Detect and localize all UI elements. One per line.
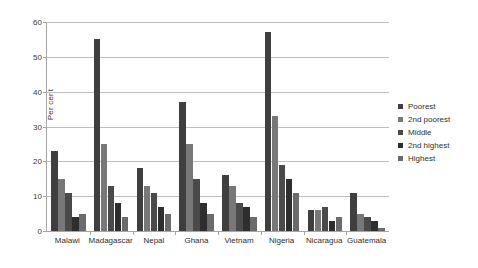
x-tick-mark xyxy=(218,231,219,235)
x-tick-mark xyxy=(346,231,347,235)
legend-swatch-icon xyxy=(398,104,403,109)
bar xyxy=(101,144,108,231)
y-tick-label: 40 xyxy=(33,87,42,96)
bar xyxy=(72,217,79,231)
x-axis-label-vietnam: Vietnam xyxy=(218,236,261,245)
bar xyxy=(272,116,279,231)
legend-swatch-icon xyxy=(398,130,403,135)
bar xyxy=(115,203,122,231)
bar xyxy=(286,179,293,231)
y-tick-label: 10 xyxy=(33,192,42,201)
bar-group xyxy=(218,22,261,231)
bar xyxy=(265,32,272,231)
bar xyxy=(51,151,58,231)
plot-area: 0102030405060 xyxy=(46,22,389,232)
bar xyxy=(58,179,65,231)
legend: Poorest2nd poorestMiddle2nd highestHighe… xyxy=(398,100,474,165)
x-axis-label-malawi: Malawi xyxy=(46,236,89,245)
bar xyxy=(236,203,243,231)
bar xyxy=(364,217,371,231)
legend-label: 2nd highest xyxy=(408,141,449,150)
x-axis-label-madagascar: Madagascar xyxy=(89,236,133,245)
bar xyxy=(137,168,144,231)
legend-item[interactable]: Poorest xyxy=(398,100,474,113)
legend-label: 2nd poorest xyxy=(408,115,450,124)
legend-swatch-icon xyxy=(398,143,403,148)
bar xyxy=(315,210,322,231)
bar xyxy=(158,207,165,231)
bar-group xyxy=(90,22,133,231)
x-tick-mark xyxy=(90,231,91,235)
bar xyxy=(144,186,151,231)
bar xyxy=(308,210,315,231)
bar xyxy=(122,217,129,231)
bar xyxy=(200,203,207,231)
bar xyxy=(378,228,385,231)
bar xyxy=(151,193,158,231)
bar xyxy=(207,214,214,231)
bar-group xyxy=(346,22,389,231)
bar xyxy=(229,186,236,231)
bar xyxy=(94,39,101,231)
legend-item[interactable]: 2nd poorest xyxy=(398,113,474,126)
bar xyxy=(329,221,336,231)
bar xyxy=(243,207,250,231)
legend-item[interactable]: 2nd highest xyxy=(398,139,474,152)
legend-label: Poorest xyxy=(408,102,436,111)
bar xyxy=(165,214,172,231)
x-tick-mark xyxy=(261,231,262,235)
bar xyxy=(65,193,72,231)
x-tick-mark xyxy=(133,231,134,235)
bars-layer xyxy=(47,22,389,231)
y-tick-label: 20 xyxy=(33,157,42,166)
bar xyxy=(193,179,200,231)
bar-group xyxy=(47,22,90,231)
bar xyxy=(357,214,364,231)
bar xyxy=(250,217,257,231)
x-axis-label-ghana: Ghana xyxy=(175,236,218,245)
bar xyxy=(279,165,286,231)
bar xyxy=(322,207,329,231)
y-tick-label: 30 xyxy=(33,122,42,131)
x-axis-label-guatemala: Guatemala xyxy=(345,236,388,245)
legend-item[interactable]: Middle xyxy=(398,126,474,139)
bar xyxy=(336,217,343,231)
x-tick-mark xyxy=(304,231,305,235)
bar xyxy=(371,221,378,231)
bar xyxy=(186,144,193,231)
legend-label: Highest xyxy=(408,154,435,163)
legend-swatch-icon xyxy=(398,156,403,161)
legend-item[interactable]: Highest xyxy=(398,152,474,165)
y-tick-label: 60 xyxy=(33,18,42,27)
bar-group xyxy=(133,22,176,231)
x-axis-labels: MalawiMadagascarNepalGhanaVietnamNigeria… xyxy=(46,236,388,245)
bar-group xyxy=(304,22,347,231)
bar xyxy=(108,186,115,231)
legend-swatch-icon xyxy=(398,117,403,122)
y-tick-label: 50 xyxy=(33,52,42,61)
bar-chart: Per cent 0102030405060 MalawiMadagascarN… xyxy=(0,0,478,268)
x-tick-mark xyxy=(175,231,176,235)
bar-group xyxy=(175,22,218,231)
y-tick-label: 0 xyxy=(38,227,42,236)
x-axis-label-nicaragua: Nicaragua xyxy=(303,236,346,245)
bar xyxy=(350,193,357,231)
bar xyxy=(179,102,186,231)
bar xyxy=(293,193,300,231)
bar xyxy=(222,175,229,231)
y-tick-mark xyxy=(43,231,47,232)
legend-label: Middle xyxy=(408,128,432,137)
x-axis-label-nepal: Nepal xyxy=(133,236,176,245)
x-axis-label-nigeria: Nigeria xyxy=(260,236,303,245)
bar-group xyxy=(261,22,304,231)
bar xyxy=(79,214,86,231)
